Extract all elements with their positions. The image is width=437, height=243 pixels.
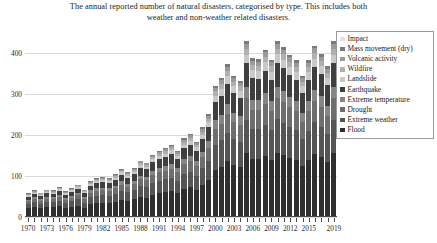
legend-item-landslide[interactable]: Landslide	[340, 74, 430, 84]
bar-segment-flood	[107, 203, 112, 217]
bar-segment-extreme-temperature	[206, 141, 211, 148]
x-tick-1999	[209, 218, 210, 222]
bar-segment-landslide	[275, 54, 280, 62]
x-axis-label-1976: 1976	[58, 224, 73, 233]
bar-segment-extreme-weather	[312, 122, 317, 154]
bar-segment-earthquake	[213, 102, 218, 120]
bar-segment-earthquake	[275, 63, 280, 87]
bar-segment-extreme-temperature	[294, 101, 299, 111]
bar-segment-extreme-weather	[244, 120, 249, 153]
bar-segment-extreme-temperature	[281, 91, 286, 102]
bar-segment-earthquake	[206, 127, 211, 141]
bar-segment-extreme-weather	[169, 178, 174, 192]
bar-segment-drought	[306, 111, 311, 130]
legend-item-earthquake[interactable]: Earthquake	[340, 84, 430, 94]
bar-segment-earthquake	[306, 80, 311, 101]
bar-segment-flood	[163, 192, 168, 217]
legend-swatch-icon	[340, 128, 345, 133]
x-tick-1994	[178, 218, 179, 222]
legend-item-drought[interactable]: Drought	[340, 105, 430, 115]
bar-segment-flood	[300, 166, 305, 217]
bar-segment-drought	[231, 122, 236, 139]
bar-segment-flood	[100, 203, 105, 217]
bar-segment-extreme-weather	[287, 127, 292, 158]
chart-title-line-1: The annual reported number of natural di…	[0, 1, 437, 12]
x-axis-label-1994: 1994	[171, 224, 186, 233]
x-tick-2000	[215, 218, 216, 222]
bar-segment-extreme-weather	[250, 129, 255, 159]
bar-segment-landslide	[325, 78, 330, 85]
bar-segment-earthquake	[231, 93, 236, 112]
bar-segment-flood	[256, 159, 261, 217]
bar-segment-earthquake	[238, 98, 243, 116]
legend-item-flood[interactable]: Flood	[340, 125, 430, 135]
x-tick-1989	[147, 218, 148, 222]
bar-segment-landslide	[319, 66, 324, 74]
bar-segment-drought	[206, 148, 211, 161]
chart-legend[interactable]: ImpactMass movement (dry)Volcanic activi…	[336, 31, 434, 139]
legend-item-extreme-weather[interactable]: Extreme weather	[340, 115, 430, 125]
bar-segment-drought	[244, 98, 249, 119]
bar-segment-extreme-weather	[281, 123, 286, 155]
bar-segment-extreme-weather	[138, 186, 143, 197]
bar-segment-extreme-weather	[163, 179, 168, 192]
bar-segment-flood	[231, 165, 236, 217]
bar-segment-extreme-weather	[125, 192, 130, 201]
bar-segment-extreme-temperature	[238, 116, 243, 125]
bar-segment-earthquake	[200, 139, 205, 151]
bar-segment-earthquake	[219, 96, 224, 115]
bar-segment-landslide	[287, 67, 292, 75]
bar-segment-earthquake	[144, 169, 149, 176]
bar-segment-drought	[294, 111, 299, 130]
bar-segment-flood	[94, 203, 99, 217]
bar-segment-flood	[263, 156, 268, 217]
bar-segment-drought	[238, 125, 243, 142]
bar-segment-extreme-weather	[238, 142, 243, 168]
bar-segment-earthquake	[175, 159, 180, 168]
x-tick-1985	[122, 218, 123, 222]
legend-label: Drought	[348, 105, 373, 115]
bar-segment-extreme-temperature	[269, 101, 274, 111]
bar-segment-extreme-weather	[275, 119, 280, 152]
legend-item-mass-movement-dry[interactable]: Mass movement (dry)	[340, 44, 430, 54]
x-tick-1974	[53, 218, 54, 222]
bar-segment-extreme-weather	[263, 125, 268, 157]
bar-segment-extreme-weather	[306, 131, 311, 160]
legend-item-volcanic-activity[interactable]: Volcanic activity	[340, 54, 430, 64]
x-tick-2013	[296, 218, 297, 222]
bar-segment-extreme-weather	[107, 196, 112, 203]
bar-segment-landslide	[312, 59, 317, 67]
y-axis-label-100: 100	[11, 172, 22, 181]
x-tick-2018	[328, 218, 329, 222]
x-axis-label-1982: 1982	[96, 224, 111, 233]
bar-segment-flood	[269, 160, 274, 217]
bar-segment-drought	[200, 157, 205, 168]
bar-segment-extreme-weather	[188, 172, 193, 188]
x-axis-label-1991: 1991	[152, 224, 167, 233]
legend-label: Earthquake	[348, 85, 382, 95]
x-axis-label-1970: 1970	[21, 224, 36, 233]
bar-segment-earthquake	[157, 159, 162, 168]
bar-segment-landslide	[306, 72, 311, 80]
bar-segment-flood	[219, 167, 224, 217]
x-tick-1986	[128, 218, 129, 222]
legend-item-impact[interactable]: Impact	[340, 34, 430, 44]
plot-area: 0100200300400	[25, 36, 337, 218]
bar-segment-landslide	[219, 89, 224, 96]
bar-segment-flood	[157, 193, 162, 217]
x-axis-label-1973: 1973	[40, 224, 55, 233]
bar-segment-extreme-weather	[144, 187, 149, 198]
bar-segment-extreme-weather	[325, 134, 330, 162]
bar-series-container	[25, 41, 337, 217]
x-tick-2007	[259, 218, 260, 222]
bar-segment-landslide	[263, 62, 268, 70]
legend-item-wildfire[interactable]: Wildfire	[340, 64, 430, 74]
x-tick-1972	[41, 218, 42, 222]
x-axis-label-1985: 1985	[114, 224, 129, 233]
bar-segment-extreme-weather	[231, 139, 236, 166]
x-tick-2015	[309, 218, 310, 222]
bar-segment-extreme-temperature	[287, 97, 292, 108]
legend-item-extreme-temperature[interactable]: Extreme temperature	[340, 95, 430, 105]
x-tick-1990	[153, 218, 154, 222]
bar-segment-extreme-weather	[157, 181, 162, 194]
